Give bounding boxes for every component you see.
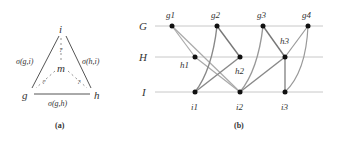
node-i1 bbox=[193, 90, 198, 95]
node-m-label: m bbox=[57, 62, 65, 74]
row-label-H: H bbox=[138, 51, 148, 63]
label-h3: h3 bbox=[280, 36, 290, 46]
unknown-h-m: ? bbox=[77, 78, 81, 86]
caption-a: (a) bbox=[55, 121, 65, 130]
node-h-label: h bbox=[94, 89, 100, 101]
node-i-label: i bbox=[59, 23, 62, 35]
diagram-canvas: i m g h ? ? ? σ(g,i) σ(h,i) σ(g,h) (a) bbox=[0, 0, 341, 142]
label-g4: g4 bbox=[302, 10, 312, 20]
unknown-i-m: ? bbox=[59, 46, 63, 54]
edge-g1-i2 bbox=[172, 26, 240, 92]
dash-g-m bbox=[36, 71, 55, 88]
node-g2 bbox=[215, 24, 220, 29]
label-h2: h2 bbox=[235, 66, 245, 76]
node-i3 bbox=[283, 90, 288, 95]
label-i1: i1 bbox=[191, 102, 198, 112]
caption-b: (b) bbox=[234, 121, 244, 130]
label-g1: g1 bbox=[166, 10, 175, 20]
label-i3: i3 bbox=[281, 102, 289, 112]
edge-g2-h2 bbox=[217, 26, 240, 57]
edge-g-i bbox=[32, 36, 59, 88]
row-label-G: G bbox=[139, 20, 147, 32]
node-h1 bbox=[193, 55, 198, 60]
sigma-g-i-label: σ(g,i) bbox=[16, 57, 34, 66]
node-g4 bbox=[306, 24, 311, 29]
node-h2 bbox=[238, 55, 243, 60]
label-g2: g2 bbox=[211, 10, 221, 20]
node-i2 bbox=[238, 90, 243, 95]
edge-h3-i2 bbox=[240, 57, 285, 92]
row-label-I: I bbox=[141, 86, 147, 98]
panel-a: i m g h ? ? ? σ(g,i) σ(h,i) σ(g,h) (a) bbox=[16, 23, 100, 130]
node-g3 bbox=[261, 24, 266, 29]
edge-g3-i2 bbox=[240, 26, 263, 92]
sigma-h-i-label: σ(h,i) bbox=[82, 57, 100, 66]
panel-b: G H I g1 g2 g3 g4 h1 h2 h3 i1 i2 i3 (b) bbox=[138, 10, 323, 130]
node-h3 bbox=[283, 55, 288, 60]
node-g1 bbox=[170, 24, 175, 29]
label-i2: i2 bbox=[236, 102, 244, 112]
unknown-g-m: ? bbox=[42, 78, 46, 86]
edge-g1-h1 bbox=[172, 26, 195, 57]
label-h1: h1 bbox=[180, 60, 189, 70]
node-g-label: g bbox=[22, 89, 28, 101]
label-g3: g3 bbox=[257, 10, 267, 20]
sigma-g-h-label: σ(g,h) bbox=[48, 99, 68, 108]
